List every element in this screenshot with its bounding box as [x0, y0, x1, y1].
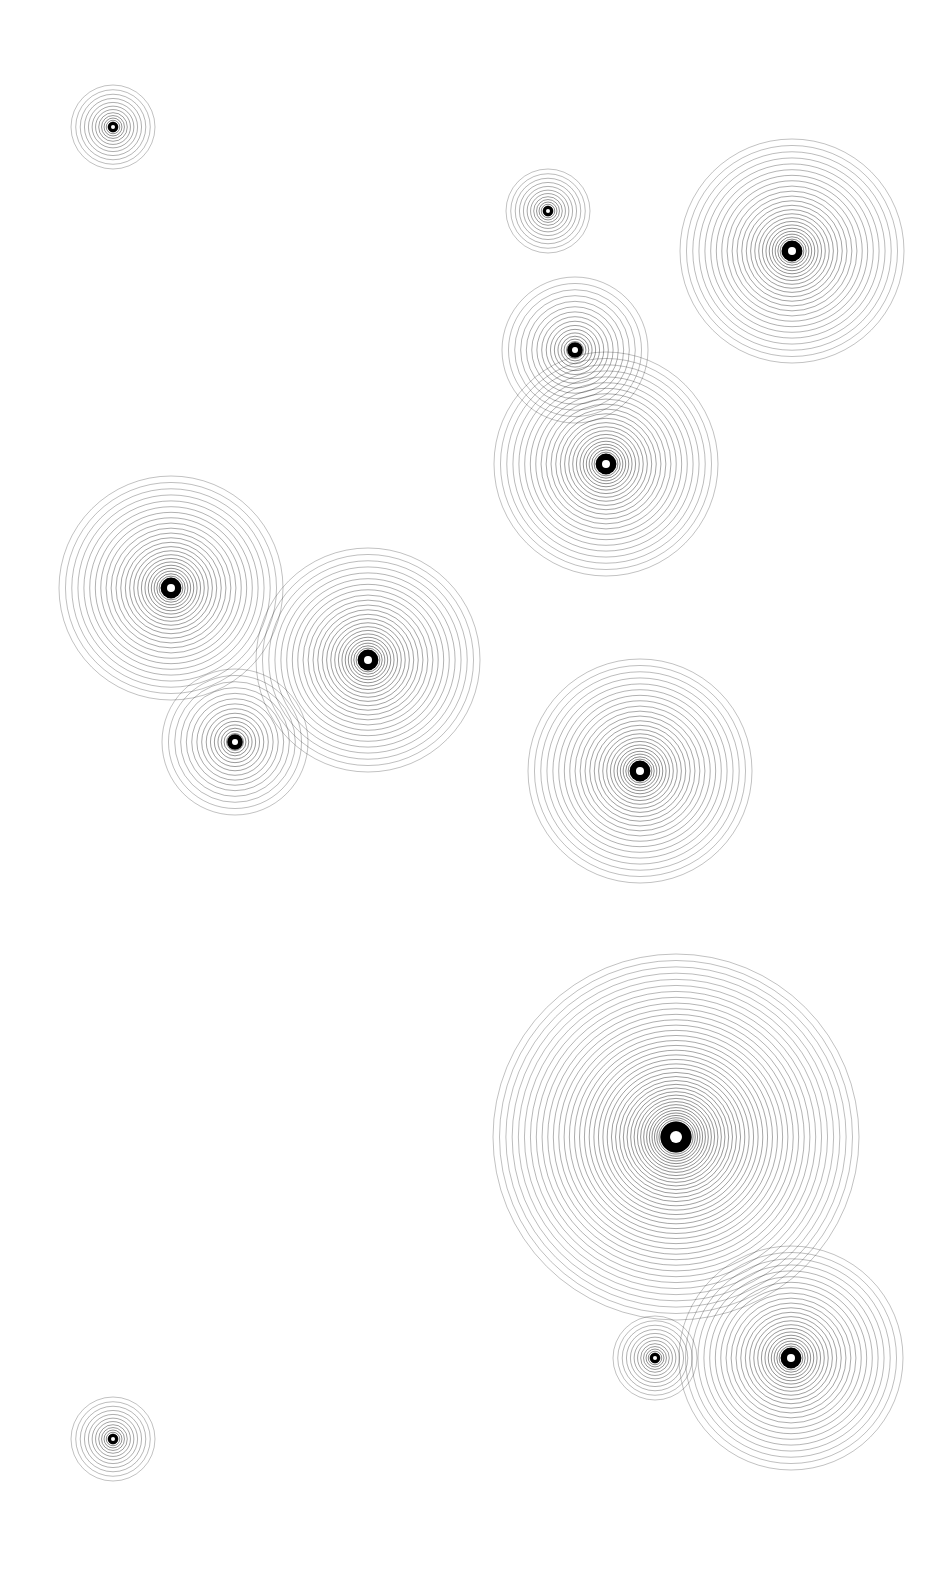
ring-group	[71, 1397, 155, 1481]
ring-group	[506, 169, 590, 253]
rings-svg	[0, 0, 948, 1587]
ring-center-hole	[636, 767, 644, 775]
ring-group	[493, 954, 859, 1320]
ring-group	[680, 139, 904, 363]
ring-center-hole	[787, 1354, 795, 1362]
ring-center-hole	[111, 1437, 115, 1441]
ring-center-hole	[232, 739, 238, 745]
ring-center-hole	[364, 656, 372, 664]
ring-group	[528, 659, 752, 883]
ring-center-hole	[653, 1356, 657, 1360]
ring-center-hole	[788, 247, 796, 255]
ring-center-hole	[572, 347, 578, 353]
ring-center-hole	[111, 125, 115, 129]
ring-group	[162, 669, 308, 815]
ring-group	[71, 85, 155, 169]
concentric-rings-artwork	[0, 0, 948, 1587]
ring-group	[59, 476, 283, 700]
ring-group	[494, 352, 718, 576]
ring-group	[613, 1316, 697, 1400]
ring-group	[256, 548, 480, 772]
ring-center-hole	[546, 209, 550, 213]
ring-center-hole	[167, 584, 175, 592]
ring-center-hole	[670, 1131, 682, 1143]
ring-center-hole	[602, 460, 610, 468]
